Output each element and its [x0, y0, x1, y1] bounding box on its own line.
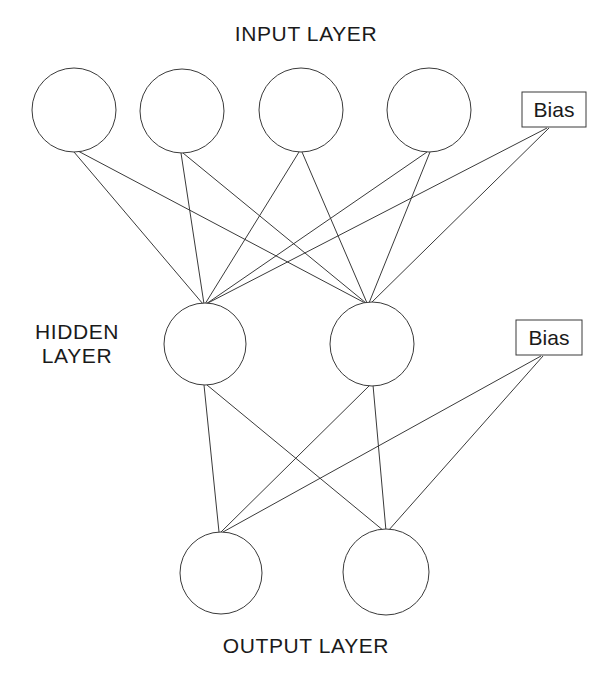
input-node-3[interactable]: [259, 68, 343, 152]
node-group-hidden-layer: [164, 302, 414, 386]
node-group-output-layer: [180, 529, 429, 615]
edge-h2-o1: [221, 385, 370, 532]
output-node-2[interactable]: [343, 529, 429, 615]
edge-group-bias-top-to-hidden: [206, 128, 549, 304]
hidden-node-2[interactable]: [330, 302, 414, 386]
edge-group-input-to-hidden: [74, 151, 430, 304]
neural-network-diagram: INPUT LAYER HIDDENLAYER OUTPUT LAYER Bia…: [0, 0, 612, 678]
output-layer-label: OUTPUT LAYER: [0, 634, 612, 658]
edge-i4-h2: [369, 152, 430, 303]
edge-h1-o1: [204, 385, 219, 532]
input-node-1[interactable]: [32, 68, 116, 152]
bias-top-label: Bias: [522, 92, 586, 127]
edge-h2-o2: [373, 385, 386, 531]
input-node-2[interactable]: [140, 69, 224, 153]
hidden-node-1[interactable]: [164, 303, 246, 385]
edge-i1-h1: [74, 152, 203, 304]
edge-i3-h2: [302, 152, 367, 303]
hidden-layer-label-line2: LAYER: [42, 344, 112, 367]
edge-biastop-h1: [206, 128, 547, 304]
edge-i2-h2: [183, 153, 366, 303]
edge-i1-h2: [78, 151, 365, 303]
bias-bottom-label: Bias: [516, 320, 582, 355]
node-group-input-layer: [32, 68, 471, 153]
input-node-4[interactable]: [387, 68, 471, 152]
input-layer-label: INPUT LAYER: [0, 22, 612, 46]
hidden-layer-label-line1: HIDDEN: [35, 320, 119, 343]
edge-group-hidden-to-output: [204, 385, 386, 532]
edge-biastop-h2: [370, 128, 549, 304]
output-node-1[interactable]: [180, 532, 262, 614]
bias-box-group: [516, 92, 586, 355]
edge-biasbottom-o2: [388, 356, 543, 531]
hidden-layer-label: HIDDENLAYER: [4, 320, 150, 368]
edge-i2-h1: [181, 153, 204, 304]
edge-i3-h1: [205, 152, 299, 304]
